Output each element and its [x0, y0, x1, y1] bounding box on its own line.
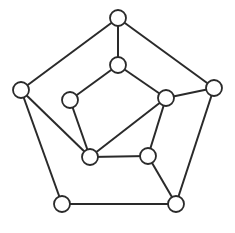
graph-edges — [21, 18, 214, 204]
edge-inner-top-inner-left — [70, 65, 118, 100]
node-outer-right — [206, 80, 222, 96]
edge-outer-top-outer-right — [118, 18, 214, 88]
edge-inner-right-inner-bottom-right — [148, 98, 166, 156]
node-inner-left — [62, 92, 78, 108]
node-outer-top — [110, 10, 126, 26]
node-outer-left — [13, 82, 29, 98]
edge-outer-right-outer-bottom-right — [176, 88, 214, 204]
edge-inner-right-inner-bottom-left — [90, 98, 166, 157]
node-inner-top — [110, 57, 126, 73]
node-inner-bottom-right — [140, 148, 156, 164]
node-inner-right — [158, 90, 174, 106]
edge-outer-left-inner-bottom-left — [21, 90, 90, 157]
graph-diagram — [0, 0, 235, 233]
node-inner-bottom-left — [82, 149, 98, 165]
edge-outer-left-outer-bottom-left — [21, 90, 62, 204]
edge-outer-top-outer-left — [21, 18, 118, 90]
node-outer-bottom-left — [54, 196, 70, 212]
node-outer-bottom-right — [168, 196, 184, 212]
